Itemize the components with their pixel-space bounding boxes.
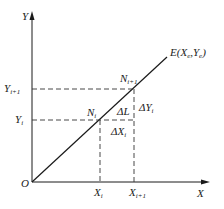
delta-x-label: ΔXi [110, 125, 126, 139]
x-axis-arrow-icon [201, 180, 210, 185]
trajectory-line [32, 57, 167, 182]
x-i-tick-label: Xi [93, 186, 103, 200]
y-axis-label: Y [22, 10, 30, 22]
y-i-tick-label: Yi [15, 113, 23, 127]
point-n-i1-label: Ni+1 [119, 72, 138, 86]
x-axis-label: X [196, 187, 205, 199]
delta-l-label: ΔL [116, 105, 130, 117]
endpoint-label: E(Xe,Ye) [169, 46, 206, 60]
x-i1-tick-label: Xi+1 [128, 186, 146, 200]
y-axis-arrow-icon [30, 11, 35, 20]
origin-label: O [21, 177, 29, 189]
delta-y-label: ΔYi [138, 101, 154, 115]
point-n-i-label: Ni [86, 106, 96, 120]
interpolation-diagram: Y X O E(Xe,Ye) Ni+1 Ni Yi+1 Yi Xi Xi+1 Δ… [0, 0, 224, 209]
y-i1-tick-label: Yi+1 [4, 82, 20, 96]
